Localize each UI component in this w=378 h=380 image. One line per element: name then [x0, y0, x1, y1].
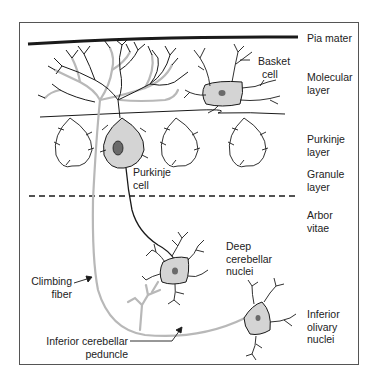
label-climbing-fiber: Climbing fiber [30, 275, 72, 300]
inferior-olivary-neuron [244, 278, 296, 360]
label-text: Inferior [307, 308, 340, 321]
purkinje-dendritic-tree [38, 39, 188, 118]
label-granule-layer: Granule layer [307, 168, 344, 193]
label-text: Pia mater [307, 32, 352, 45]
label-purkinje-layer: Purkinje layer [307, 133, 345, 158]
label-text: olivary [307, 321, 340, 334]
label-text: layer [307, 146, 345, 159]
label-text: Inferior cerebellar [38, 335, 128, 348]
label-purkinje-cell: Purkinje cell [133, 166, 171, 191]
label-inferior-olivary-nuclei: Inferior olivary nuclei [307, 308, 340, 346]
molecular-boundary-line [40, 110, 285, 117]
label-text: vitae [307, 222, 333, 235]
label-text: layer [307, 181, 344, 194]
label-text: fiber [30, 288, 72, 301]
label-text: Purkinje [133, 166, 171, 179]
label-text: nuclei [307, 333, 340, 346]
label-molecular-layer: Molecular layer [307, 71, 353, 96]
label-text: cell [258, 68, 290, 81]
label-text: nuclei [226, 265, 272, 278]
label-pia-mater: Pia mater [307, 32, 352, 45]
label-text: Purkinje [307, 133, 345, 146]
label-basket-cell: Basket cell [258, 55, 290, 80]
label-text: Granule [307, 168, 344, 181]
label-text: cell [133, 179, 171, 192]
cerebellum-diagram: Pia mater Molecular layer Purkinje layer… [0, 0, 378, 380]
label-text: Climbing [30, 275, 72, 288]
label-text: Deep [226, 240, 272, 253]
label-text: cerebellar [226, 253, 272, 266]
label-text: layer [307, 84, 353, 97]
label-text: Basket [258, 55, 290, 68]
label-text: Molecular [307, 71, 353, 84]
pia-mater-line [28, 37, 298, 44]
label-inferior-cerebellar-peduncle: Inferior cerebellar peduncle [38, 335, 128, 360]
basket-terminals [54, 118, 268, 167]
label-arbor-vitae: Arbor vitae [307, 209, 333, 234]
label-deep-cerebellar-nuclei: Deep cerebellar nuclei [226, 240, 272, 278]
label-text: Arbor [307, 209, 333, 222]
label-text: peduncle [38, 348, 128, 361]
